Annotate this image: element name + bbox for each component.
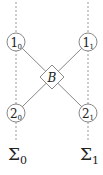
diagram-canvas: B 1 0 1 1 2 0 2 1 Σ 0 Σ 1 (0, 0, 103, 175)
node-2_1: 2 1 (79, 104, 97, 122)
svg-text:0: 0 (20, 154, 27, 167)
svg-text:0: 0 (18, 43, 22, 51)
svg-text:1: 1 (90, 43, 94, 51)
sigma-1-label: Σ 1 (80, 144, 99, 167)
sigma-0-label: Σ 0 (8, 144, 27, 167)
node-1_1: 1 1 (79, 33, 97, 51)
center-node-label: B (47, 71, 57, 85)
svg-text:2: 2 (82, 107, 90, 121)
svg-text:2: 2 (10, 107, 18, 121)
node-2_0: 2 0 (7, 104, 25, 122)
svg-text:0: 0 (18, 114, 22, 122)
node-1_0: 1 0 (7, 33, 25, 51)
svg-text:1: 1 (92, 154, 99, 167)
svg-text:Σ: Σ (8, 144, 20, 164)
svg-text:1: 1 (90, 114, 94, 122)
svg-text:Σ: Σ (80, 144, 92, 164)
